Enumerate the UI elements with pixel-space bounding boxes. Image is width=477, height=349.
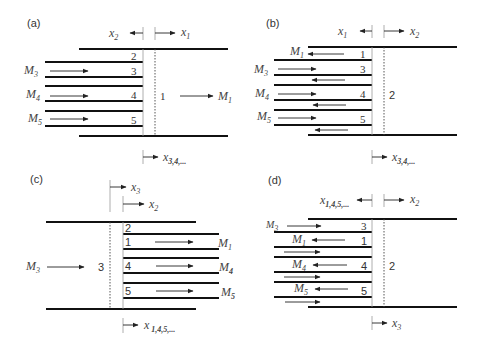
mass-label: M5 bbox=[256, 109, 271, 125]
panel-label-d: (d) bbox=[268, 174, 281, 186]
mass-label: M3 bbox=[23, 63, 38, 79]
layer-number: 3 bbox=[361, 220, 367, 232]
label-x34: x3,4,... bbox=[391, 150, 415, 166]
region-number: 3 bbox=[98, 261, 104, 273]
region-number: 1 bbox=[160, 90, 166, 102]
label-x1: x1 bbox=[337, 24, 347, 40]
layer-number: 5 bbox=[125, 285, 131, 297]
label-x145: x1,4,5,... bbox=[143, 318, 175, 334]
mass-label: M1 bbox=[289, 44, 304, 60]
panel-c: (c) x3 x2 2 1 4 5 M1 M4 M5 M3 3 x1,4,5,.… bbox=[25, 173, 235, 334]
layer-number: 5 bbox=[361, 285, 367, 297]
region-number: 2 bbox=[389, 260, 395, 272]
label-x2: x2 bbox=[148, 197, 158, 213]
label-x2: x2 bbox=[108, 26, 118, 42]
mass-label: M4 bbox=[291, 257, 306, 273]
panel-label-c: (c) bbox=[30, 173, 43, 185]
panel-a: (a) x2 x1 2 3 4 5 M3 M4 M5 1 bbox=[23, 17, 232, 166]
mass-label: M5 bbox=[293, 281, 308, 297]
mass-label: M4 bbox=[25, 87, 40, 103]
mass-label: M1 bbox=[291, 232, 306, 248]
panel-b: (b) x1 x2 1 3 4 5 M1 M3 M4 M5 bbox=[253, 17, 457, 166]
layer-number: 2 bbox=[125, 222, 131, 234]
layer-number: 4 bbox=[360, 88, 366, 100]
mass-label-left: M3 bbox=[25, 259, 40, 275]
mass-label: M4 bbox=[218, 260, 233, 276]
panel-label-b: (b) bbox=[266, 17, 279, 29]
mass-label: M4 bbox=[254, 86, 269, 102]
label-x34: x3,4,... bbox=[162, 150, 186, 166]
mass-label: M1 bbox=[217, 89, 232, 105]
layer-number: 5 bbox=[360, 113, 366, 125]
layer-number: 4 bbox=[125, 260, 131, 272]
label-x2: x2 bbox=[409, 24, 419, 40]
layer-number: 1 bbox=[361, 235, 367, 247]
layer-number: 1 bbox=[360, 48, 366, 60]
mass-label: M5 bbox=[220, 285, 235, 301]
label-x2: x2 bbox=[409, 192, 419, 208]
mass-label: M1 bbox=[217, 236, 232, 252]
layer-number: 5 bbox=[131, 114, 137, 126]
label-x145: x1,4,5,... bbox=[319, 193, 349, 209]
layer-number: 4 bbox=[361, 260, 367, 272]
label-x1: x1 bbox=[180, 25, 190, 41]
layer-number: 1 bbox=[125, 236, 131, 248]
layer-number: 3 bbox=[360, 63, 366, 75]
mass-label: M3 bbox=[253, 62, 268, 78]
figure-canvas: (a) x2 x1 2 3 4 5 M3 M4 M5 1 bbox=[0, 0, 477, 349]
region-number: 2 bbox=[389, 89, 395, 101]
layer-number: 2 bbox=[131, 50, 137, 62]
panel-label-a: (a) bbox=[27, 17, 40, 29]
mass-label: M5 bbox=[27, 111, 42, 127]
label-x3: x3 bbox=[130, 180, 140, 196]
layer-number: 3 bbox=[131, 65, 137, 77]
layer-number: 4 bbox=[131, 89, 137, 101]
label-x3: x3 bbox=[391, 316, 401, 332]
panel-d: (d) x1,4,5,... x2 3 1 4 5 M3 M1 M4 M5 bbox=[265, 174, 457, 332]
mass-label: M3 bbox=[265, 219, 278, 233]
